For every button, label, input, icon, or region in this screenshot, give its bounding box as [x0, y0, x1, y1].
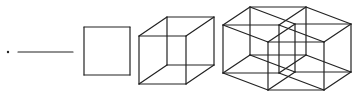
- edge: [250, 55, 295, 72]
- edge: [279, 25, 324, 42]
- edge: [268, 24, 295, 42]
- edge: [186, 17, 214, 36]
- point-dot: [7, 51, 9, 53]
- edge: [223, 73, 268, 90]
- cube-figure: [139, 17, 214, 84]
- edge: [223, 25, 268, 42]
- edge: [268, 72, 295, 90]
- square-figure: [84, 27, 130, 75]
- edge: [306, 7, 351, 24]
- edge: [186, 65, 214, 84]
- point-figure: [7, 51, 9, 53]
- edge: [279, 7, 306, 25]
- edge: [324, 24, 351, 42]
- tesseract-figure: [223, 7, 351, 90]
- edge: [306, 55, 351, 72]
- edge: [324, 72, 351, 90]
- edge: [223, 55, 250, 73]
- edge: [279, 55, 306, 73]
- edge: [250, 7, 295, 24]
- edge: [139, 65, 167, 84]
- edge: [223, 7, 250, 25]
- diagram-canvas: [0, 0, 359, 104]
- edge: [139, 17, 167, 36]
- edge: [279, 73, 324, 90]
- dimension-diagram: [0, 0, 359, 104]
